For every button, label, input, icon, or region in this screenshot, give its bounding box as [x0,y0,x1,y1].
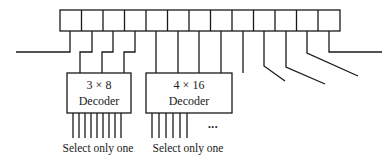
field-line-11 [286,31,325,84]
decoder-4x16-outputs [152,113,187,138]
decoder-4x16-name: Decoder [169,94,210,108]
field-line-2 [80,31,92,73]
field-line-4 [124,31,135,73]
field-line-12 [307,31,358,76]
decoder-3x8-footer: Select only one [63,142,134,155]
decoder-4x16-size: 4 × 16 [174,78,205,92]
register [60,10,340,31]
decoder-3x8-outputs [73,113,121,138]
field-line-13 [329,31,382,52]
field-line-10 [264,31,285,81]
more-outputs-ellipsis: ••• [208,123,218,132]
field-line-1 [16,31,70,52]
decoder-diagram: 3 × 8 Decoder 4 × 16 Decoder ••• Select … [0,0,392,161]
decoder-4x16-footer: Select only one [153,142,224,155]
decoder-3x8-size: 3 × 8 [87,78,112,92]
decoder-3x8-name: Decoder [79,94,120,108]
field-line-3 [102,31,113,73]
register-outline [60,10,340,31]
